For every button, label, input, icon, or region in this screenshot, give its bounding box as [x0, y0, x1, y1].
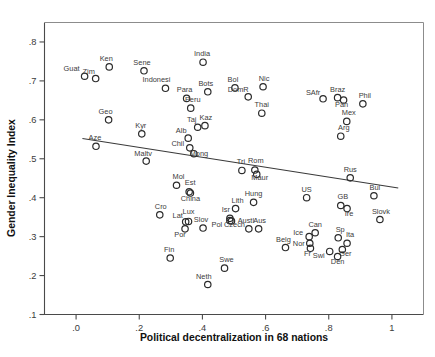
data-point-marker — [232, 205, 238, 211]
data-point-label: DomR — [228, 85, 249, 94]
x-tick-label: .4 — [199, 323, 207, 333]
data-point: Ita — [344, 230, 355, 246]
data-points: GuatZimKenSeneIndonesiIndiaGeoKyrAzeMalt… — [64, 49, 391, 288]
data-point-label: Aus — [253, 216, 266, 225]
data-point-marker — [167, 255, 173, 261]
y-tick-label: .4 — [29, 193, 37, 203]
data-point-marker — [143, 158, 149, 164]
data-point-label: Pol — [212, 220, 223, 229]
axis-ticks — [40, 42, 392, 320]
data-point-marker — [255, 226, 261, 232]
y-tick-label: .5 — [29, 154, 37, 164]
data-point-marker — [139, 131, 145, 137]
data-point: Pan — [335, 97, 348, 109]
data-point-label: Slovk — [372, 207, 390, 216]
data-point: Mol — [173, 172, 185, 188]
data-point-label: Swi — [313, 251, 325, 260]
data-point-label: Bol — [228, 75, 239, 84]
data-point-label: Swe — [219, 255, 233, 264]
data-point-label: Slov — [194, 215, 209, 224]
data-point-marker — [344, 240, 350, 246]
data-point-label: Thai — [255, 100, 270, 109]
x-tick-label: .2 — [135, 323, 143, 333]
data-point-label: Ita — [346, 230, 355, 239]
data-point-marker — [92, 75, 98, 81]
data-point-label: Nic — [259, 74, 270, 83]
y-tick-label: .3 — [29, 232, 37, 242]
data-point-marker — [205, 89, 211, 95]
data-point: Bots — [198, 79, 213, 95]
y-tick-label: .1 — [29, 310, 37, 320]
data-point-label: Can — [308, 220, 322, 229]
data-point: Slov — [194, 215, 209, 231]
data-point: US — [302, 185, 312, 201]
data-point: Fin — [164, 245, 174, 261]
data-point: Por — [174, 226, 188, 239]
data-point-label: Fin — [164, 245, 174, 254]
data-point-label: Phil — [359, 91, 372, 100]
data-point-label: Lat — [173, 211, 183, 220]
data-point: Hung — [245, 189, 263, 205]
data-point-marker — [260, 84, 266, 90]
data-point: Sp — [335, 225, 345, 241]
data-point-label: Austl — [238, 216, 255, 225]
data-point: Thai — [255, 100, 270, 116]
data-point-marker — [194, 124, 200, 130]
data-point-marker — [200, 225, 206, 231]
data-point-marker — [377, 216, 383, 222]
y-tick-label: .2 — [29, 271, 37, 281]
plot-frame — [45, 23, 424, 315]
data-point: Maltv — [134, 149, 152, 164]
data-point: Tri — [237, 157, 246, 173]
data-point: Peru — [185, 95, 201, 111]
data-point: Ice — [293, 228, 312, 240]
data-point-marker — [246, 226, 252, 232]
data-point: Indonesi — [142, 75, 170, 91]
data-point: Kaz — [200, 113, 213, 129]
data-point-marker — [371, 193, 377, 199]
data-point-label: Kyr — [135, 121, 147, 130]
data-point-label: Mex — [342, 108, 356, 117]
data-point-label: Aze — [89, 133, 102, 142]
data-point-marker — [335, 235, 341, 241]
data-point: India — [194, 49, 211, 65]
data-point: Austl — [238, 216, 255, 232]
data-point: Aus — [253, 216, 266, 232]
data-point: SAfr — [306, 88, 326, 102]
data-point-label: Zim — [83, 67, 95, 76]
data-point-marker — [205, 281, 211, 287]
data-point-label: Ken — [100, 54, 113, 63]
data-point-marker — [105, 117, 111, 123]
data-point-label: US — [302, 185, 312, 194]
y-tick-label: .8 — [29, 37, 37, 47]
data-point-label: Ire — [345, 209, 354, 218]
data-point-marker — [306, 233, 312, 239]
data-point: Sene — [133, 58, 150, 74]
data-point-label: SAfr — [306, 88, 321, 97]
data-point-label: GB — [337, 192, 348, 201]
data-point-marker — [93, 143, 99, 149]
data-point: Arg — [338, 123, 350, 139]
data-point: Ken — [100, 54, 113, 70]
data-point: Bul — [370, 183, 381, 199]
data-point: Neth — [196, 272, 212, 288]
data-point: Maur — [251, 171, 268, 182]
data-point-marker — [338, 202, 344, 208]
data-point-marker — [162, 85, 168, 91]
y-tick-label: .6 — [29, 115, 37, 125]
data-point-label: Lith — [232, 196, 244, 205]
data-point-label: Arg — [338, 123, 350, 132]
data-point-label: Neth — [196, 272, 212, 281]
data-point: Slovk — [372, 207, 390, 223]
data-point-label: Para — [177, 85, 194, 94]
x-tick-label: .6 — [262, 323, 270, 333]
data-point-label: Est — [185, 178, 196, 187]
data-point-marker — [157, 212, 163, 218]
data-point: Nic — [259, 74, 270, 90]
data-point-label: Guat — [64, 64, 80, 73]
data-point-label: Sene — [133, 58, 150, 67]
x-axis-title: Political decentralization in 68 nations — [140, 332, 328, 343]
x-tick-label: 1 — [389, 323, 394, 333]
data-point-marker — [303, 195, 309, 201]
data-point-label: Belg — [276, 235, 291, 244]
